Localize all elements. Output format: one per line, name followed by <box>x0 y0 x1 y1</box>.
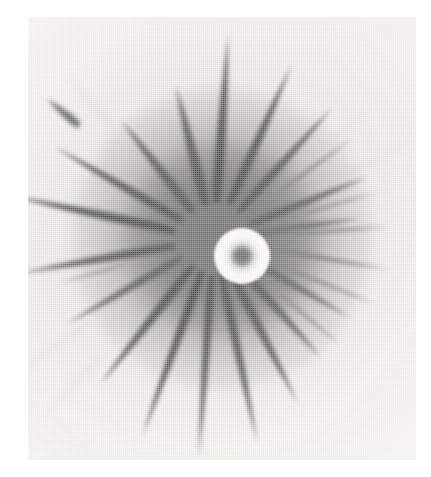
screenshot-root: Black and white halftone micrograph of a… <box>0 0 431 477</box>
spike <box>67 256 183 324</box>
spike <box>213 35 228 203</box>
spike <box>36 354 103 424</box>
spike <box>28 322 90 390</box>
spike <box>28 243 175 273</box>
bright-annular-centre <box>214 228 270 284</box>
spike <box>47 99 81 128</box>
spike <box>275 248 390 270</box>
spike <box>199 275 214 457</box>
spike <box>298 107 372 169</box>
photographic-plate <box>28 17 416 460</box>
spike <box>278 138 353 193</box>
spike <box>219 274 258 443</box>
